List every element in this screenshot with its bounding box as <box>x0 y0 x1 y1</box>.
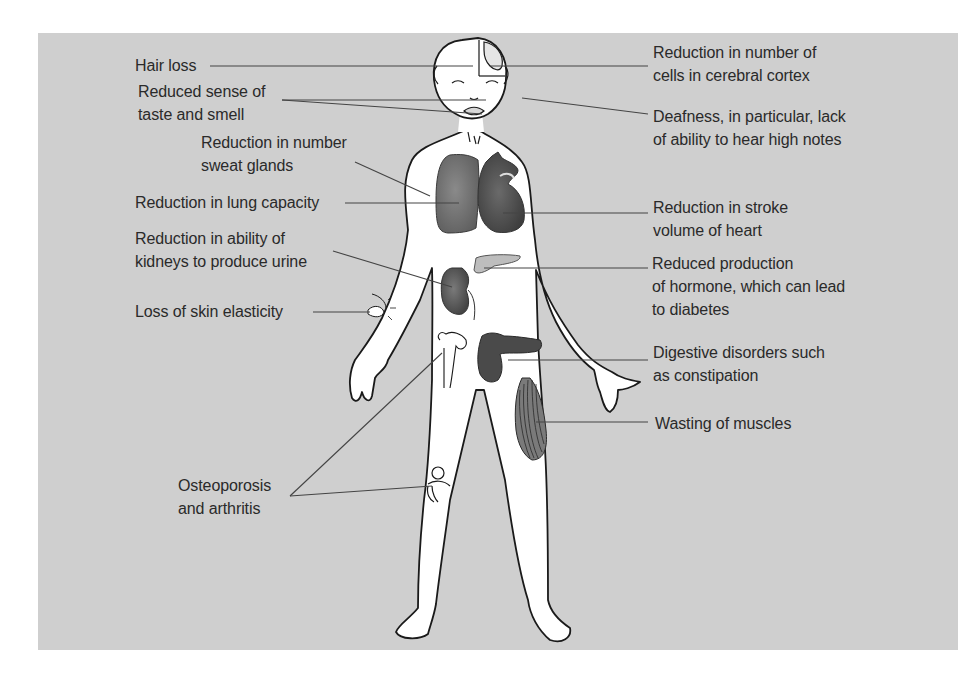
label-osteoporosis: Osteoporosis and arthritis <box>178 474 271 520</box>
label-lung-capacity: Reduction in lung capacity <box>135 191 319 214</box>
label-deafness: Deafness, in particular, lack of ability… <box>653 105 846 151</box>
label-taste-smell: Reduced sense of taste and smell <box>138 80 265 126</box>
label-muscles: Wasting of muscles <box>655 412 791 435</box>
label-hair-loss: Hair loss <box>135 54 196 77</box>
label-stroke-volume: Reduction in stroke volume of heart <box>653 196 788 242</box>
lung <box>436 155 479 233</box>
label-cerebral-cortex: Reduction in number of cells in cerebral… <box>653 41 816 87</box>
label-digestive: Digestive disorders such as constipation <box>653 341 825 387</box>
label-skin-elasticity: Loss of skin elasticity <box>135 300 283 323</box>
label-kidneys: Reduction in ability of kidneys to produ… <box>135 227 307 273</box>
label-sweat-glands: Reduction in number sweat glands <box>201 131 347 177</box>
label-hormone: Reduced production of hormone, which can… <box>652 252 845 321</box>
kidney <box>441 268 468 314</box>
